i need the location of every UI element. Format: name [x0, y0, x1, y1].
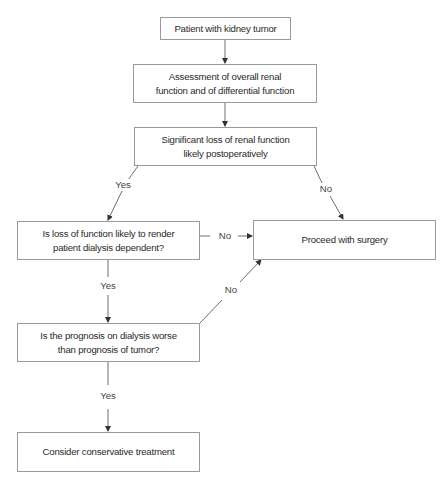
edge-n3-n5-b — [330, 196, 343, 219]
edge-n6-n5-a — [200, 300, 222, 323]
edge-label-n4-n5: No — [217, 230, 233, 242]
node-assessment-renal-function: Assessment of overall renal function and… — [133, 64, 317, 103]
flowchart-canvas: Patient with kidney tumor Assessment of … — [0, 0, 448, 486]
node-proceed-with-surgery: Proceed with surgery — [253, 220, 436, 260]
edge-label-n4-n6: Yes — [98, 280, 118, 292]
node-significant-loss-decision: Significant loss of renal function likel… — [134, 127, 317, 166]
edge-label-n6-n7: Yes — [98, 390, 118, 402]
edge-n3-n4-b — [108, 191, 122, 220]
node-consider-conservative-treatment: Consider conservative treatment — [17, 432, 200, 472]
node-prognosis-decision: Is the prognosis on dialysis worse than … — [17, 323, 200, 362]
edge-label-n6-n5: No — [223, 284, 239, 296]
node-dialysis-dependent-decision: Is loss of function likely to render pat… — [17, 221, 200, 260]
node-patient-with-kidney-tumor: Patient with kidney tumor — [160, 17, 291, 40]
edge-n3-n5-a — [314, 166, 322, 183]
edge-n3-n4-a — [128, 166, 138, 180]
edge-label-n3-n4: Yes — [113, 179, 133, 191]
edge-label-n3-n5: No — [318, 183, 334, 195]
edge-n6-n5-b — [240, 260, 261, 282]
